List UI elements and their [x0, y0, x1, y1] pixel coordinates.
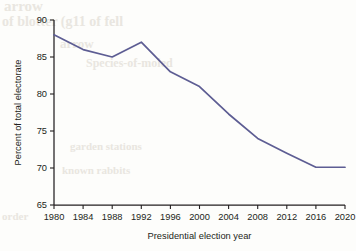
- y-axis-tick-label: 80: [37, 89, 47, 99]
- line-chart-svg: 6570758085901980198419881992199620002004…: [0, 0, 356, 251]
- y-axis-tick-label: 70: [37, 163, 47, 173]
- x-axis-tick-label: 2008: [247, 212, 268, 222]
- x-axis-tick-label: 1996: [160, 212, 181, 222]
- x-axis-tick-label: 2004: [218, 212, 239, 222]
- data-line-series: [54, 35, 345, 167]
- x-axis-tick-label: 2016: [306, 212, 327, 222]
- x-axis-tick-label: 1980: [44, 212, 65, 222]
- y-axis-tick-label: 90: [37, 15, 47, 25]
- x-axis-tick-label: 1984: [73, 212, 94, 222]
- x-axis-tick-label: 2000: [189, 212, 210, 222]
- chart-figure: arrow of blotter (g11 of fell arrow Spec…: [0, 0, 356, 251]
- x-axis-title: Presidential election year: [148, 231, 252, 241]
- x-axis-tick-label: 2012: [276, 212, 297, 222]
- y-axis-tick-label: 75: [37, 126, 47, 136]
- y-axis-tick-label: 85: [37, 52, 47, 62]
- y-axis-title: Percent of total electorate: [13, 60, 23, 166]
- y-axis-tick-label: 65: [37, 200, 47, 210]
- x-axis-tick-label: 1992: [131, 212, 152, 222]
- x-axis-tick-label: 1988: [102, 212, 123, 222]
- x-axis-tick-label: 2020: [335, 212, 356, 222]
